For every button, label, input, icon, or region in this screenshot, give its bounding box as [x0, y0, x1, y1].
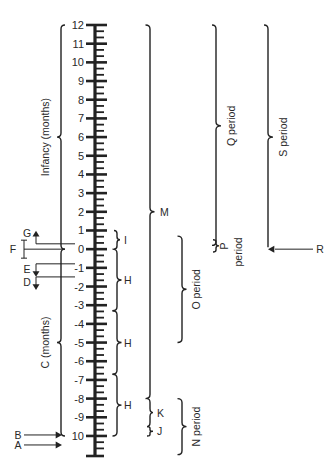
- tick-label: 8: [78, 94, 84, 106]
- brace-label-c: C (months): [39, 317, 51, 369]
- brace-label-N: N period: [190, 407, 202, 447]
- marker-B: B: [14, 429, 62, 441]
- tick-label: 10: [72, 56, 84, 68]
- brace-label-J: J: [157, 425, 162, 437]
- tick-label: -7: [74, 374, 84, 386]
- tick-label: 7: [78, 112, 84, 124]
- arrow-right-icon: [56, 441, 62, 448]
- tick-label: -8: [74, 393, 84, 405]
- marker-G: G: [23, 227, 75, 244]
- brace-label-S: S period: [277, 117, 289, 156]
- tick-label: -6: [74, 355, 84, 367]
- marker-label: A: [14, 439, 21, 451]
- brace-I: [114, 230, 120, 249]
- tick-label: 4: [78, 168, 84, 180]
- brace-N: [178, 399, 187, 455]
- tick-label: 5: [78, 150, 84, 162]
- brace-S: [264, 25, 273, 247]
- arrow-up-icon: [33, 231, 40, 237]
- tick-label: -2: [74, 281, 84, 293]
- pointer-R-label: R: [316, 243, 324, 255]
- tick-label: 3: [78, 187, 84, 199]
- marker-label: D: [23, 276, 31, 288]
- brace-H2: [113, 311, 122, 375]
- brace-label-P-period: period: [232, 237, 244, 266]
- brace-O: [178, 236, 187, 342]
- left-annotations: Infancy (months)C (months)GFEDBA: [10, 25, 75, 451]
- brace-M: [146, 25, 155, 399]
- arrow-left-icon: [268, 246, 274, 253]
- tick-label: -3: [74, 299, 84, 311]
- tick-label: 12: [72, 19, 84, 31]
- marker-E: E: [23, 263, 75, 277]
- brace-label-O: O period: [190, 269, 202, 309]
- brace-label-P: P: [218, 242, 230, 249]
- tick-label: -1: [74, 262, 84, 274]
- tick-label: 2: [78, 206, 84, 218]
- brace-Q: [212, 25, 221, 245]
- brace-J: [147, 427, 153, 436]
- tick-label: 1: [78, 224, 84, 236]
- brace-label-M: M: [160, 206, 169, 218]
- marker-D: D: [23, 276, 75, 290]
- tick-label: 10: [72, 430, 84, 442]
- tick-label: 6: [78, 131, 84, 143]
- tick-label: -5: [74, 337, 84, 349]
- tick-label: 11: [73, 38, 84, 50]
- tick-label: 9: [78, 75, 84, 87]
- brace-H1: [113, 249, 122, 311]
- tick-label: -9: [74, 411, 84, 423]
- marker-label: F: [10, 243, 16, 255]
- brace-label-infancy: Infancy (months): [39, 98, 51, 176]
- arrow-down-icon: [33, 284, 40, 290]
- timeline-axis: 1211109876543210-1-2-3-4-5-6-7-8-910: [72, 19, 107, 456]
- marker-label: G: [23, 227, 31, 239]
- tick-label: 0: [78, 243, 84, 255]
- brace-label-Q: Q period: [225, 106, 237, 146]
- brace-infancy: [57, 25, 65, 249]
- brace-label-H3: H: [124, 399, 132, 411]
- tick-label: -4: [74, 318, 84, 330]
- brace-label-I: I: [124, 234, 127, 246]
- timeline-diagram: 1211109876543210-1-2-3-4-5-6-7-8-910 Inf…: [0, 0, 331, 464]
- brace-H3: [113, 374, 122, 436]
- brace-label-K: K: [157, 407, 164, 419]
- arrow-down-icon: [33, 271, 40, 277]
- marker-label: E: [23, 263, 30, 275]
- marker-A: A: [14, 439, 62, 451]
- brace-K: [147, 399, 153, 427]
- brace-label-H2: H: [124, 337, 132, 349]
- right-annotations: IHHHMKJO periodN periodQ periodPperiodS …: [113, 25, 325, 455]
- brace-label-H1: H: [124, 274, 132, 286]
